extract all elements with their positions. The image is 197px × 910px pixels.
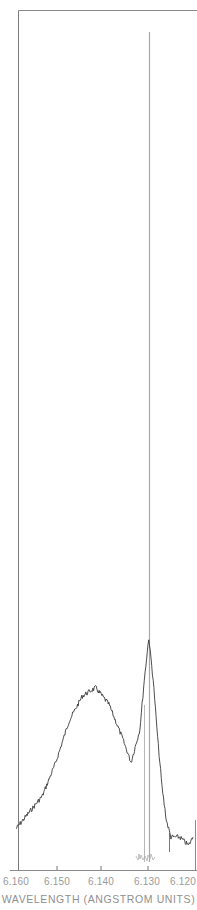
spectrum-chart bbox=[0, 0, 197, 910]
line-base-noise bbox=[136, 854, 155, 861]
x-ticks bbox=[57, 866, 148, 870]
spectrum-trace bbox=[16, 640, 193, 845]
x-tick-label: 6.120 bbox=[170, 876, 196, 887]
x-tick-label: 6.140 bbox=[88, 876, 114, 887]
x-tick-label: 6.150 bbox=[44, 876, 70, 887]
x-tick-label: 6.130 bbox=[134, 876, 160, 887]
x-axis-title: WAVELENGTH (ANGSTROM UNITS) bbox=[0, 893, 197, 905]
plot-frame bbox=[10, 11, 197, 871]
x-tick-label: 6.160 bbox=[3, 876, 29, 887]
